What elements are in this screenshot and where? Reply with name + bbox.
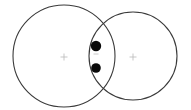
- diagram-canvas: [0, 0, 191, 110]
- upper-dot: [91, 41, 101, 51]
- lower-dot: [91, 63, 101, 73]
- two-circle-venn-diagram: [0, 0, 191, 110]
